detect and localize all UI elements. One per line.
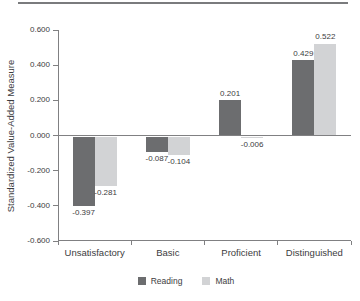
y-tick-label: 0.200 [2,95,50,105]
y-tick-mark [53,30,58,31]
bar-value-label: 0.201 [208,89,252,98]
category-label-basic: Basic [131,247,204,258]
y-tick-label: -0.400 [2,201,50,211]
legend: ReadingMath [0,276,360,286]
bar-math-proficient [241,137,263,138]
category-label-distinguished: Distinguished [278,247,351,258]
x-tick-mark [277,241,278,245]
bar-math-basic [168,137,190,155]
y-tick-mark [53,65,58,66]
y-tick-mark [53,205,58,206]
y-tick-mark [53,170,58,171]
category-label-unsatisfactory: Unsatisfactory [58,247,131,258]
bar-reading-basic [146,137,168,152]
bar-value-label: -0.104 [157,157,201,166]
x-tick-mark [131,241,132,245]
bar-value-label: 0.429 [281,49,325,58]
legend-label: Reading [151,276,183,286]
bar-value-label: -0.006 [230,140,274,149]
bar-math-unsatisfactory [95,137,117,186]
x-tick-mark [351,241,352,245]
legend-item-math: Math [202,276,234,286]
zero-axis-line [58,135,351,136]
legend-marker-reading [138,277,146,285]
top-rule [18,2,348,4]
chart-figure: Standardized Value-Added Measure 0.6000.… [0,0,360,301]
y-tick-label: -0.600 [2,236,50,246]
bar-reading-distinguished [292,60,314,135]
y-tick-mark [53,100,58,101]
y-tick-label: 0.000 [2,131,50,141]
legend-item-reading: Reading [138,276,183,286]
y-tick-label: 0.400 [2,60,50,70]
plot-area: 0.6000.4000.2000.000-0.200-0.400-0.600-0… [58,30,351,241]
bar-value-label: -0.281 [84,188,128,197]
y-tick-label: -0.200 [2,166,50,176]
x-tick-mark [204,241,205,245]
bar-value-label: -0.397 [62,208,106,217]
legend-label: Math [215,276,234,286]
legend-marker-math [202,277,210,285]
bar-value-label: 0.522 [303,32,347,41]
bar-reading-proficient [219,100,241,135]
category-label-proficient: Proficient [205,247,278,258]
x-tick-mark [58,241,59,245]
y-tick-label: 0.600 [2,25,50,35]
